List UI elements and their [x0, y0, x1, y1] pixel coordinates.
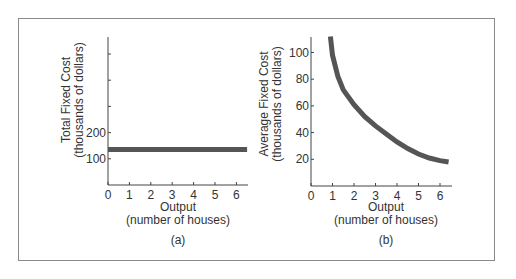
- y-tick-label: 20: [296, 152, 310, 166]
- y-tick-label: 100: [289, 46, 309, 60]
- y-tick-label: 80: [296, 72, 310, 86]
- x-tick-label: 0: [105, 188, 112, 202]
- chart-b-ylabel-line1: Average Fixed Cost: [257, 51, 271, 157]
- chart-b-xlabel-line1: Output: [368, 200, 405, 214]
- x-tick-label: 6: [437, 189, 444, 203]
- x-tick-label: 5: [212, 188, 219, 202]
- x-tick-label: 6: [233, 188, 240, 202]
- chart-b-xlabel-line2: (number of houses): [334, 213, 438, 227]
- chart-a-xlabel-line1: Output: [160, 200, 197, 214]
- chart-a-ylabel-line2: (thousands of dollars): [72, 42, 86, 157]
- y-tick-label: 40: [296, 126, 310, 140]
- chart-a-ylabel-line1: Total Fixed Cost: [59, 56, 73, 143]
- x-tick-label: 1: [329, 189, 336, 203]
- chart-a-panel-label: (a): [171, 233, 186, 247]
- chart-b-panel-label: (b): [379, 233, 394, 247]
- y-tick-label: 200: [86, 126, 106, 140]
- x-tick-label: 0: [308, 189, 315, 203]
- y-tick-label: 100: [86, 152, 106, 166]
- chart-b-average-fixed-cost-curve: [330, 37, 448, 163]
- x-tick-label: 5: [415, 189, 422, 203]
- charts-svg: 100200 0123456 Output (number of houses)…: [0, 0, 516, 279]
- chart-a-xlabel-line2: (number of houses): [126, 213, 230, 227]
- chart-b-average-fixed-cost: 20406080100 0123456 Output (number of ho…: [257, 37, 452, 248]
- x-tick-label: 1: [126, 188, 133, 202]
- x-tick-label: 2: [147, 188, 154, 202]
- chart-a-total-fixed-cost: 100200 0123456 Output (number of houses)…: [59, 37, 248, 247]
- x-tick-label: 2: [351, 189, 358, 203]
- chart-b-ylabel-line2: (thousands of dollars): [270, 46, 284, 161]
- y-tick-label: 60: [296, 99, 310, 113]
